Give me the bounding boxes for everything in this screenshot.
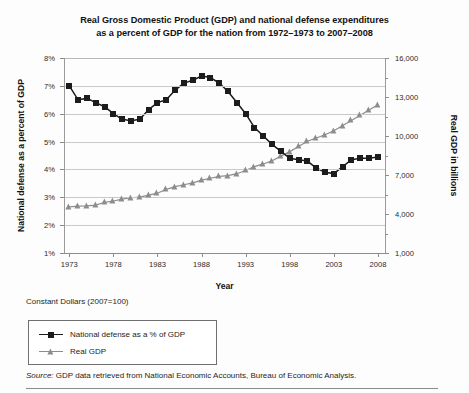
data-point-marker bbox=[366, 106, 372, 112]
data-point-marker bbox=[110, 111, 116, 117]
y-tick-left bbox=[60, 142, 64, 143]
data-point-marker bbox=[234, 100, 240, 106]
data-point-marker bbox=[199, 73, 205, 79]
series-lines bbox=[64, 58, 385, 253]
data-point-marker bbox=[304, 158, 310, 164]
legend-label-defense: National defense as a % of GDP bbox=[70, 330, 185, 339]
y-tick-right-minor bbox=[385, 78, 388, 79]
y-tick-left bbox=[60, 197, 64, 198]
chart-page: Real Gross Domestic Product (GDP) and na… bbox=[0, 0, 469, 393]
y-axis-label-right: 1,000 bbox=[395, 249, 414, 258]
y-tick-right bbox=[385, 136, 389, 137]
chart-title-line-2: as a percent of GDP for the nation from … bbox=[0, 27, 469, 40]
y-axis-label-left: 4% bbox=[44, 165, 55, 174]
data-point-marker bbox=[251, 125, 257, 131]
y-axis-label-left: 3% bbox=[44, 193, 55, 202]
grid-line bbox=[64, 58, 385, 59]
data-point-marker bbox=[172, 183, 178, 189]
y-tick-right-minor bbox=[385, 156, 388, 157]
y-axis-label-left: 2% bbox=[44, 221, 55, 230]
y-axis-label-right: 10,000 bbox=[395, 132, 418, 141]
grid-line bbox=[64, 225, 385, 226]
data-point-marker bbox=[207, 175, 213, 181]
x-tick bbox=[246, 253, 247, 257]
chart-legend: National defense as a % of GDP Real GDP bbox=[28, 320, 217, 365]
y-axis-label-left: 5% bbox=[44, 137, 55, 146]
data-point-marker bbox=[286, 148, 292, 154]
source-note: Source: GDP data retrieved from National… bbox=[26, 371, 356, 380]
legend-triangle-marker-icon bbox=[39, 346, 63, 357]
series-line bbox=[69, 105, 378, 207]
data-point-marker bbox=[287, 155, 293, 161]
data-point-marker bbox=[137, 116, 143, 122]
x-axis-line bbox=[64, 253, 385, 254]
data-point-marker bbox=[154, 100, 160, 106]
data-point-marker bbox=[181, 80, 187, 86]
data-point-marker bbox=[269, 141, 275, 147]
x-axis-label: 2008 bbox=[369, 260, 386, 269]
data-point-marker bbox=[260, 133, 266, 139]
y-tick-right bbox=[385, 253, 389, 254]
data-point-marker bbox=[154, 190, 160, 196]
x-tick bbox=[69, 253, 70, 257]
legend-item-gdp: Real GDP bbox=[39, 344, 106, 358]
chart-title: Real Gross Domestic Product (GDP) and na… bbox=[0, 14, 469, 39]
y-tick-right bbox=[385, 97, 389, 98]
data-point-marker bbox=[366, 155, 372, 161]
data-point-marker bbox=[190, 77, 196, 83]
x-axis-label: 1998 bbox=[281, 260, 298, 269]
data-point-marker bbox=[233, 170, 239, 176]
y-tick-left bbox=[60, 58, 64, 59]
data-point-marker bbox=[216, 173, 222, 179]
data-point-marker bbox=[145, 192, 151, 198]
x-axis-label: 1993 bbox=[237, 260, 254, 269]
bottom-divider bbox=[26, 388, 438, 389]
data-point-marker bbox=[330, 127, 336, 133]
chart-title-line-1: Real Gross Domestic Product (GDP) and na… bbox=[0, 14, 469, 27]
data-point-marker bbox=[127, 194, 133, 200]
data-point-marker bbox=[348, 117, 354, 123]
legend-item-defense: National defense as a % of GDP bbox=[39, 327, 185, 341]
data-point-marker bbox=[136, 193, 142, 199]
data-point-marker bbox=[92, 202, 98, 208]
data-point-marker bbox=[180, 181, 186, 187]
x-axis-label: 2003 bbox=[325, 260, 342, 269]
y-axis-label-left: 1% bbox=[44, 249, 55, 258]
legend-label-gdp: Real GDP bbox=[70, 347, 106, 356]
data-point-marker bbox=[83, 202, 89, 208]
data-point-marker bbox=[357, 155, 363, 161]
data-point-marker bbox=[340, 164, 346, 170]
x-tick bbox=[290, 253, 291, 257]
x-axis-label: 1983 bbox=[149, 260, 166, 269]
data-point-marker bbox=[357, 112, 363, 118]
constant-dollars-note: Constant Dollars (2007=100) bbox=[26, 297, 129, 306]
data-point-marker bbox=[128, 118, 134, 124]
y-tick-left bbox=[60, 86, 64, 87]
x-tick bbox=[334, 253, 335, 257]
data-point-marker bbox=[375, 154, 381, 160]
x-axis-label: 1973 bbox=[61, 260, 78, 269]
y-tick-right bbox=[385, 58, 389, 59]
data-point-marker bbox=[84, 95, 90, 101]
data-point-marker bbox=[225, 88, 231, 94]
data-point-marker bbox=[119, 116, 125, 122]
y-tick-left bbox=[60, 114, 64, 115]
y-tick-right bbox=[385, 214, 389, 215]
data-point-marker bbox=[172, 87, 178, 93]
data-point-marker bbox=[331, 171, 337, 177]
data-point-marker bbox=[198, 177, 204, 183]
x-tick bbox=[113, 253, 114, 257]
data-point-marker bbox=[75, 97, 81, 103]
data-point-marker bbox=[313, 134, 319, 140]
data-point-marker bbox=[93, 100, 99, 106]
data-point-marker bbox=[207, 75, 213, 81]
data-point-marker bbox=[322, 169, 328, 175]
y-axis-title-right: Real GDP in billions bbox=[447, 58, 461, 253]
y-tick-left bbox=[60, 169, 64, 170]
data-point-marker bbox=[269, 157, 275, 163]
data-point-marker bbox=[243, 111, 249, 117]
data-point-marker bbox=[119, 195, 125, 201]
data-point-marker bbox=[304, 138, 310, 144]
data-point-marker bbox=[66, 203, 72, 209]
y-axis-label-right: 7,000 bbox=[395, 171, 414, 180]
